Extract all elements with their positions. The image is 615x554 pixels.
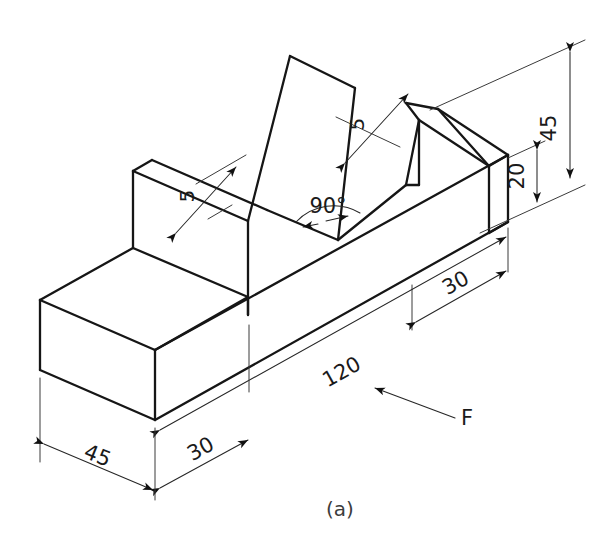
dim-label-rib-thickness-left: 5 xyxy=(175,190,199,203)
dim-label-overall-height: 45 xyxy=(537,115,561,142)
ext-line-rib-left-a xyxy=(196,155,246,184)
ext-line-height-top xyxy=(430,40,585,110)
leader-line-front-face xyxy=(375,388,455,418)
ext-line-base-top xyxy=(508,141,545,158)
dim-label-right-step-length: 30 xyxy=(438,266,473,300)
annotation-label-front-face: F xyxy=(461,406,473,430)
figure-caption: (a) xyxy=(326,497,354,521)
dim-label-rib-thickness-right: 5 xyxy=(345,118,369,131)
annotation-front-face: F xyxy=(375,388,473,430)
technical-drawing-figure: 45 20 30 120 30 xyxy=(0,0,615,554)
dim-label-part-width: 45 xyxy=(81,439,115,471)
isometric-drawing-canvas: 45 20 30 120 30 xyxy=(0,0,615,554)
dimension-base-height: 20 xyxy=(505,141,545,202)
dim-label-overall-length: 120 xyxy=(318,352,365,392)
solid-body xyxy=(40,56,508,420)
dim-label-groove-angle: 90° xyxy=(309,194,346,218)
dim-label-left-step-length: 30 xyxy=(183,432,218,466)
dim-label-base-height: 20 xyxy=(505,163,529,190)
